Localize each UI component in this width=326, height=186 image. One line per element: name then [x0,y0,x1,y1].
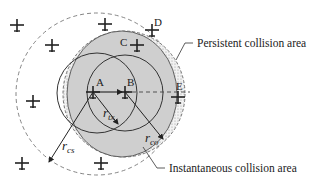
persistent-leader [176,43,193,60]
aircraft-icon [15,157,29,170]
label-r-cs: rcs [62,138,75,155]
label-a: A [96,76,104,88]
label-b: B [127,76,134,88]
label-e: E [176,80,183,92]
label-d: D [154,16,162,28]
label-c: C [120,36,127,48]
aircraft-icon [26,95,40,108]
persistent-caption: Persistent collision area [197,37,306,49]
aircraft-icon [94,157,108,170]
aircraft-icon [98,18,112,31]
aircraft-icon [45,39,59,52]
instantaneous-caption: Instantaneous collision area [169,162,297,174]
aircraft-icon [10,19,24,32]
instantaneous-collision-area [67,31,177,157]
collision-area-diagram: A B C D E rtx rco rcs Persistent collisi… [0,0,326,186]
